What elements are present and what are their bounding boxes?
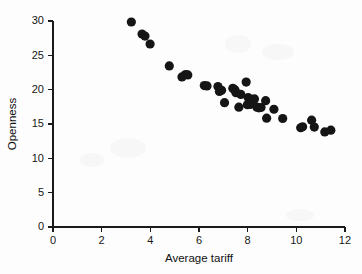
data-point [127,17,136,26]
x-tick-label: 0 [50,234,56,246]
x-tick-label: 12 [339,234,351,246]
data-point [310,122,319,131]
data-point [326,126,335,135]
x-tick-label: 6 [196,234,202,246]
y-tick-label: 20 [32,83,44,95]
data-point [242,78,251,87]
x-axis-title: Average tariff [165,252,234,264]
y-tick-label: 25 [32,49,44,61]
x-tick-label: 10 [290,234,302,246]
x-axis-ticks: 024681012 [50,227,351,246]
data-point [261,96,270,105]
data-point [278,114,287,123]
data-point [298,122,307,131]
data-point [262,114,271,123]
data-point [220,98,229,107]
plot-canvas: 024681012 051015202530 Average tariff Op… [0,0,362,274]
y-axis-title: Openness [6,98,18,151]
x-tick-label: 8 [245,234,251,246]
x-tick-label: 2 [99,234,105,246]
y-tick-label: 15 [32,117,44,129]
data-point [145,39,154,48]
data-point [202,81,211,90]
data-point [165,61,174,70]
data-point [217,86,226,95]
y-tick-label: 0 [38,220,44,232]
data-point [234,103,243,112]
y-tick-label: 5 [38,186,44,198]
data-point [250,94,259,103]
scan-noise [80,35,314,221]
data-point [269,105,278,114]
y-tick-label: 10 [32,152,44,164]
data-point-series [127,17,336,136]
y-tick-label: 30 [32,14,44,26]
data-point [183,70,192,79]
x-tick-label: 4 [147,234,153,246]
scatter-plot-figure: 024681012 051015202530 Average tariff Op… [0,0,362,274]
y-axis-ticks: 051015202530 [32,14,53,232]
data-point [140,31,149,40]
